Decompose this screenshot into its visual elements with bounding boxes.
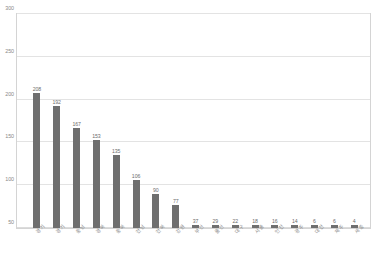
- y-axis-tick-label: 300: [5, 5, 14, 11]
- bar[interactable]: 208: [33, 93, 40, 228]
- x-label-slot: 경기: [26, 230, 46, 258]
- x-label-slot: 강원: [166, 230, 186, 258]
- bar-value-label: 192: [53, 99, 61, 105]
- x-label-slot: 인천: [265, 230, 285, 258]
- bar-slot: 77: [166, 14, 186, 228]
- x-label-slot: 충북: [106, 230, 126, 258]
- x-label-slot: 세종: [345, 230, 365, 258]
- bar-slot: 208: [27, 14, 47, 228]
- bar-slot: 90: [146, 14, 166, 228]
- bar-slot: 14: [285, 14, 305, 228]
- bar-value-label: 6: [313, 218, 316, 224]
- x-label-slot: 제주: [325, 230, 345, 258]
- x-label-slot: 전남: [126, 230, 146, 258]
- bar-slot: 106: [126, 14, 146, 228]
- x-label-slot: 전북: [146, 230, 166, 258]
- bar-slot: 37: [186, 14, 206, 228]
- bar-value-label: 6: [333, 218, 336, 224]
- bar[interactable]: 192: [53, 106, 60, 228]
- bar-slot: 18: [245, 14, 265, 228]
- plot-area: 50100150200250300 2081921671531351069077…: [16, 13, 371, 229]
- bar-value-label: 106: [132, 173, 140, 179]
- bar[interactable]: 167: [73, 128, 80, 228]
- bar-value-label: 208: [33, 86, 41, 92]
- bar-slot: 135: [106, 14, 126, 228]
- bar-value-label: 77: [173, 198, 179, 204]
- bar-slot: 167: [67, 14, 87, 228]
- bar-slot: 4: [344, 14, 364, 228]
- bar[interactable]: 106: [133, 180, 140, 228]
- bar[interactable]: 90: [152, 194, 159, 228]
- x-label-slot: 대구: [225, 230, 245, 258]
- bar-slot: 6: [324, 14, 344, 228]
- bar-slot: 22: [225, 14, 245, 228]
- bar[interactable]: 153: [93, 140, 100, 228]
- bar-value-label: 14: [292, 218, 298, 224]
- bar-series: 2081921671531351069077372922181614664: [27, 14, 364, 228]
- x-label-slot: 서울: [245, 230, 265, 258]
- bar[interactable]: 135: [113, 155, 120, 228]
- bar-value-label: 153: [92, 133, 100, 139]
- x-label-slot: 충남: [66, 230, 86, 258]
- bar-value-label: 167: [72, 121, 80, 127]
- bar-value-label: 135: [112, 148, 120, 154]
- y-axis-tick-label: 250: [5, 48, 14, 54]
- bar-slot: 6: [305, 14, 325, 228]
- y-axis-tick-label: 200: [5, 91, 14, 97]
- bar-slot: 192: [47, 14, 67, 228]
- bar-chart: 50100150200250300 2081921671531351069077…: [0, 0, 387, 258]
- y-axis-tick-label: 50: [8, 219, 14, 225]
- x-label-slot: 광주: [285, 230, 305, 258]
- bar-slot: 153: [86, 14, 106, 228]
- x-label-slot: 부산: [186, 230, 206, 258]
- bar-value-label: 90: [153, 187, 159, 193]
- x-axis-labels: 경기경기충남경북충북전남전북강원부산울산대구서울인천광주대전제주세종: [26, 230, 365, 258]
- x-label-slot: 경기: [46, 230, 66, 258]
- bar-slot: 16: [265, 14, 285, 228]
- bar-value-label: 4: [353, 218, 356, 224]
- bar-slot: 29: [205, 14, 225, 228]
- x-label-slot: 대전: [305, 230, 325, 258]
- x-label-slot: 경북: [86, 230, 106, 258]
- x-label-slot: 울산: [205, 230, 225, 258]
- bar-value-label: 16: [272, 218, 278, 224]
- y-axis-tick-label: 100: [5, 176, 14, 182]
- y-axis-tick-label: 150: [5, 133, 14, 139]
